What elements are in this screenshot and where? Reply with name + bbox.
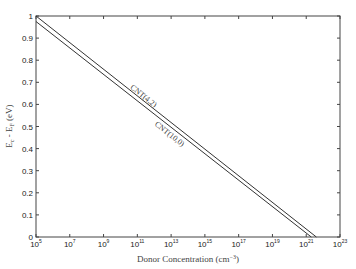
y-tick-label: 0.3 — [22, 167, 34, 176]
y-tick-label: 0.7 — [22, 78, 34, 87]
x-tick-label: 1023 — [333, 238, 348, 249]
x-tick-label: 1021 — [299, 238, 314, 249]
x-tick-label: 109 — [98, 238, 110, 249]
y-axis-title: Ec - EF (eV) — [4, 104, 15, 147]
chart: 1051071091011101310151017101910211023 00… — [0, 0, 356, 269]
y-tick-label: 0.1 — [22, 211, 34, 220]
x-tick-label: 1017 — [231, 238, 246, 249]
y-tick-label: 0.4 — [22, 145, 34, 154]
y-tick-label: 0.2 — [22, 189, 34, 198]
plot-area — [36, 16, 340, 237]
x-tick-label: 107 — [64, 238, 76, 249]
x-tick-label: 1013 — [164, 238, 179, 249]
x-tick-label: 1019 — [265, 238, 280, 249]
x-tick-label: 1011 — [130, 238, 144, 249]
y-tick-label: 0.9 — [22, 34, 34, 43]
y-tick-label: 0.8 — [22, 56, 34, 65]
y-axis: 00.10.20.30.40.50.60.70.80.91 — [22, 12, 340, 242]
plot-frame — [36, 16, 340, 237]
x-tick-label: 1015 — [198, 238, 213, 249]
series-line — [36, 16, 316, 237]
y-tick-label: 0.6 — [22, 100, 34, 109]
series-lines — [36, 16, 316, 237]
x-axis-title: Donor Concentration (cm−3) — [137, 254, 239, 264]
y-tick-label: 0.5 — [22, 123, 34, 132]
series-line — [36, 22, 311, 237]
annotations: CNT(4,2)CNT(10,0) — [128, 83, 186, 149]
y-tick-label: 0 — [29, 233, 34, 242]
y-tick-label: 1 — [29, 12, 34, 21]
x-axis: 1051071091011101310151017101910211023 — [30, 16, 347, 249]
annotation-cnt-10-0: CNT(10,0) — [153, 120, 187, 149]
